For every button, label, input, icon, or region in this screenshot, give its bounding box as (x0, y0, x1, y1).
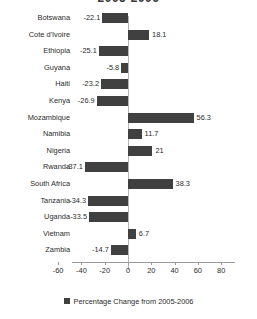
bar-value-label: -25.1 (80, 43, 97, 59)
x-tick-mark (221, 262, 222, 265)
category-label: Uganda (0, 209, 70, 225)
category-label: South Africa (0, 176, 70, 192)
bar (101, 79, 128, 89)
bar (97, 96, 128, 106)
x-tick-mark (128, 262, 129, 265)
bar-row: Botswana-22.1 (0, 10, 257, 26)
bar (88, 196, 128, 206)
category-label: Guyana (0, 60, 70, 76)
bar-value-label: -23.2 (82, 76, 99, 92)
bar (128, 229, 136, 239)
bar-value-label: -5.8 (107, 60, 120, 76)
category-label: Botswana (0, 10, 70, 26)
bar-value-label: 56.3 (197, 110, 211, 126)
bar-value-label: -34.3 (69, 193, 86, 209)
bar-value-label: -37.1 (66, 159, 83, 175)
category-label: Zambia (0, 242, 70, 258)
bar-row: Kenya-26.9 (0, 93, 257, 109)
bar (89, 212, 128, 222)
x-tick-mark (105, 262, 106, 265)
bar (121, 63, 128, 73)
bar-value-label: -14.7 (92, 242, 109, 258)
bar-value-label: 38.3 (176, 176, 190, 192)
x-tick-mark (198, 262, 199, 265)
bar (102, 13, 128, 23)
bar-row: Guyana-5.8 (0, 60, 257, 76)
bar (99, 46, 128, 56)
category-label: Kenya (0, 93, 70, 109)
bar (128, 179, 173, 189)
bar-value-label: -26.9 (78, 93, 95, 109)
x-tick-mark (175, 262, 176, 265)
legend-swatch-icon (64, 298, 70, 304)
x-tick-mark (58, 262, 59, 265)
bar-row: Haiti-23.2 (0, 76, 257, 92)
x-axis-line (72, 262, 235, 263)
bar-value-label: 18.1 (152, 27, 166, 43)
category-label: Cote d'Ivoire (0, 27, 70, 43)
category-label: Tanzania (0, 193, 70, 209)
bar-chart: 2005-2006 Botswana-22.1Cote d'Ivoire18.1… (0, 0, 257, 319)
bar-row: Cote d'Ivoire18.1 (0, 27, 257, 43)
category-label: Namibia (0, 126, 70, 142)
category-label: Vietnam (0, 226, 70, 242)
chart-title: 2005-2006 (0, 0, 257, 5)
bar-row: Nigeria21 (0, 143, 257, 159)
x-tick-label: 80 (206, 266, 236, 275)
bar (128, 30, 149, 40)
category-label: Rwanda (0, 159, 70, 175)
bar (85, 162, 128, 172)
bar-row: Namibia11.7 (0, 126, 257, 142)
bar-row: Vietnam6.7 (0, 226, 257, 242)
category-label: Nigeria (0, 143, 70, 159)
bar-value-label: 11.7 (145, 126, 159, 142)
bar (128, 146, 152, 156)
x-tick-mark (151, 262, 152, 265)
bar-value-label: -33.5 (70, 209, 87, 225)
bar (128, 129, 142, 139)
category-label: Ethiopia (0, 43, 70, 59)
bar (111, 245, 128, 255)
bar-row: Mozambique56.3 (0, 110, 257, 126)
legend-label: Percentage Change from 2005-2006 (74, 297, 194, 306)
bar-row: Uganda-33.5 (0, 209, 257, 225)
bar-row: South Africa38.3 (0, 176, 257, 192)
category-label: Mozambique (0, 110, 70, 126)
chart-legend: Percentage Change from 2005-2006 (0, 296, 257, 306)
plot-area: Botswana-22.1Cote d'Ivoire18.1Ethiopia-2… (0, 8, 257, 262)
bar-value-label: 21 (155, 143, 163, 159)
bar-row: Zambia-14.7 (0, 242, 257, 258)
category-label: Haiti (0, 76, 70, 92)
bar-row: Tanzania-34.3 (0, 193, 257, 209)
bar-row: Ethiopia-25.1 (0, 43, 257, 59)
x-tick-mark (81, 262, 82, 265)
bar-value-label: -22.1 (83, 10, 100, 26)
bar-row: Rwanda-37.1 (0, 159, 257, 175)
bar-value-label: 6.7 (139, 226, 149, 242)
bar (128, 113, 194, 123)
